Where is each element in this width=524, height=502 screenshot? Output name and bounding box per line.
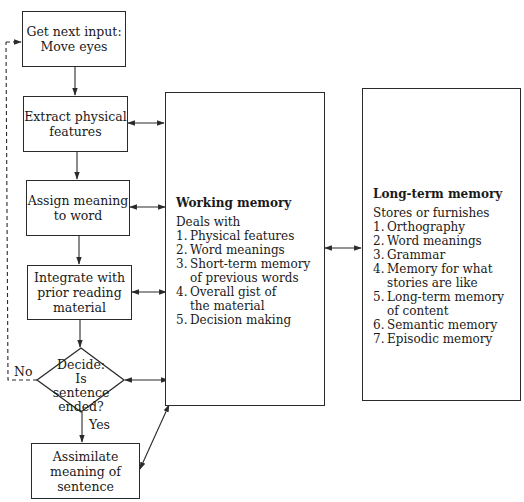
list-item: 3.Grammar: [373, 248, 504, 262]
list-item: 1.Physical features: [176, 229, 310, 243]
list-item: 2.Word meanings: [373, 234, 504, 248]
step-label: Extract physical features: [24, 109, 127, 139]
step-get-next-input: Get next input: Move eyes: [22, 11, 126, 67]
step-extract-features: Extract physical features: [23, 96, 128, 152]
step-label: Assimilate meaning of sentence: [50, 449, 121, 494]
long-term-memory-list: 1.Orthography 2.Word meanings 3.Grammar …: [373, 220, 504, 346]
list-item: 6.Semantic memory: [373, 318, 504, 332]
step-assign-meaning: Assign meaning to word: [26, 180, 130, 236]
list-item: 3.Short-term memory of previous words: [176, 257, 310, 285]
step-integrate: Integrate with prior reading material: [27, 265, 132, 320]
working-memory-list: 1.Physical features 2.Word meanings 3.Sh…: [176, 229, 310, 327]
step-label: Assign meaning to word: [28, 193, 129, 223]
list-item: 2.Word meanings: [176, 243, 310, 257]
step-assimilate: Assimilate meaning of sentence: [31, 443, 140, 499]
list-item: 7.Episodic memory: [373, 332, 504, 346]
step-label: Get next input: Move eyes: [26, 24, 121, 54]
list-item: 5.Decision making: [176, 313, 310, 327]
no-label: No: [14, 364, 32, 379]
working-memory-lead: Deals with: [176, 215, 310, 229]
working-memory-title: Working memory: [176, 196, 310, 210]
decision-label: Decide: Is sentence ended?: [45, 358, 117, 414]
step-label: Integrate with prior reading material: [34, 270, 125, 315]
long-term-memory-lead: Stores or furnishes: [373, 206, 504, 220]
arrow-assimilate-working-memory: [140, 405, 169, 469]
list-item: 1.Orthography: [373, 220, 504, 234]
yes-label: Yes: [89, 417, 110, 432]
long-term-memory-title: Long-term memory: [373, 187, 504, 201]
list-item: 4.Memory for what stories are like: [373, 262, 504, 290]
list-item: 4.Overall gist of the material: [176, 285, 310, 313]
working-memory-box: Working memory Deals with 1.Physical fea…: [165, 92, 325, 406]
long-term-memory-box: Long-term memory Stores or furnishes 1.O…: [362, 88, 521, 401]
list-item: 5.Long-term memory of content: [373, 290, 504, 318]
